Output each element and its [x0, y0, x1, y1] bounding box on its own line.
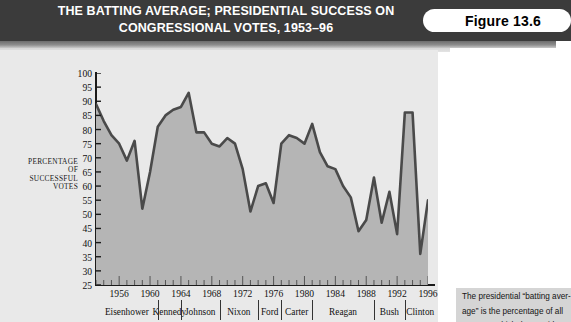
president-separator	[281, 300, 282, 320]
president-label-ford: Ford	[261, 307, 279, 317]
y-axis-tick-labels: 100959085807570656055504540353025	[62, 0, 92, 272]
president-term-band: EisenhowerKennedyJohnsonNixonFordCarterR…	[0, 300, 438, 322]
x-tick-1984: 1984	[326, 288, 345, 299]
y-tick-65: 65	[64, 166, 92, 177]
x-tick-1956: 1956	[110, 288, 129, 299]
y-tick-50: 50	[64, 209, 92, 220]
president-label-nixon: Nixon	[227, 307, 250, 317]
y-tick-75: 75	[64, 138, 92, 149]
x-tick-1972: 1972	[233, 288, 252, 299]
x-tick-1996: 1996	[418, 288, 437, 299]
president-label-clinton: Clinton	[406, 307, 434, 317]
x-tick-1964: 1964	[171, 288, 190, 299]
x-tick-1976: 1976	[264, 288, 283, 299]
y-tick-35: 35	[64, 251, 92, 262]
president-separator	[220, 300, 221, 320]
y-tick-60: 60	[64, 181, 92, 192]
y-tick-70: 70	[64, 152, 92, 163]
y-tick-40: 40	[64, 237, 92, 248]
caption-line-1: The presidential “batting aver-	[456, 288, 571, 303]
y-tick-90: 90	[64, 96, 92, 107]
title-line-2: CONGRESSIONAL VOTES, 1953–96	[40, 20, 412, 37]
president-separator	[158, 300, 159, 320]
y-tick-45: 45	[64, 223, 92, 234]
president-separator	[181, 300, 182, 320]
x-tick-1992: 1992	[388, 288, 407, 299]
y-tick-30: 30	[64, 265, 92, 276]
y-tick-100: 100	[64, 68, 92, 79]
x-tick-1968: 1968	[202, 288, 221, 299]
chart-plot-area	[96, 73, 428, 285]
caption-line-3: votes on which the president	[456, 317, 571, 322]
president-label-bush: Bush	[380, 307, 399, 317]
president-separator	[258, 300, 259, 320]
y-tick-80: 80	[64, 124, 92, 135]
president-label-reagan: Reagan	[329, 307, 357, 317]
caption-line-2: age” is the percentage of all	[456, 303, 571, 318]
y-tick-95: 95	[64, 82, 92, 93]
president-label-carter: Carter	[285, 307, 308, 317]
president-label-eisenhower: Eisenhower	[105, 307, 149, 317]
y-tick-85: 85	[64, 110, 92, 121]
x-tick-1988: 1988	[357, 288, 376, 299]
x-tick-1980: 1980	[295, 288, 314, 299]
batting-average-area-chart	[96, 73, 428, 285]
page-title: THE BATTING AVERAGE; PRESIDENTIAL SUCCES…	[40, 3, 412, 37]
president-label-johnson: Johnson	[185, 307, 215, 317]
x-tick-1960: 1960	[140, 288, 159, 299]
president-separator	[374, 300, 375, 320]
y-tick-55: 55	[64, 195, 92, 206]
president-separator	[405, 300, 406, 320]
president-separator	[312, 300, 313, 320]
figure-number-badge: Figure 13.6	[423, 9, 571, 32]
figure-number-label: Figure 13.6	[453, 13, 541, 29]
title-line-1: THE BATTING AVERAGE; PRESIDENTIAL SUCCES…	[40, 3, 412, 20]
caption-box: The presidential “batting aver- age” is …	[456, 288, 571, 322]
